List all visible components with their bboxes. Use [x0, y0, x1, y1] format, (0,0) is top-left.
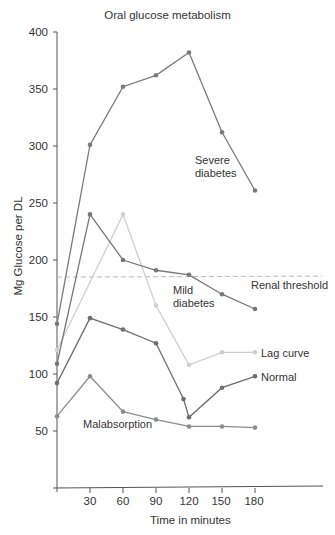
y-tick-50: 50: [0, 425, 48, 437]
data-point-normal: [55, 381, 60, 386]
data-point-normal: [181, 397, 186, 402]
data-point-lag-curve: [187, 363, 192, 368]
x-tick-150: 150: [206, 495, 236, 507]
x-tick-60: 60: [108, 495, 138, 507]
data-point-severe-diabetes: [187, 50, 192, 55]
data-point-lag-curve: [121, 212, 126, 217]
data-point-normal: [88, 316, 93, 321]
label-normal: Normal: [261, 371, 296, 384]
label-mild-diabetes: Mild diabetes: [173, 284, 215, 310]
y-tick-300: 300: [0, 140, 48, 152]
data-point-normal: [220, 385, 225, 390]
data-point-normal: [154, 341, 159, 346]
y-tick-150: 150: [0, 311, 48, 323]
x-tick-30: 30: [75, 495, 105, 507]
x-axis: [53, 486, 323, 488]
chart-title: Oral glucose metabolism: [0, 9, 335, 21]
label-renal-threshold: Renal threshold: [251, 279, 328, 292]
data-point-malabsorption: [88, 374, 93, 379]
label-severe-diabetes: Severe diabetes: [195, 154, 237, 180]
y-tick-100: 100: [0, 368, 48, 380]
data-point-lag-curve: [220, 350, 225, 355]
x-axis-label: Time in minutes: [150, 514, 270, 526]
chart-container: Oral glucose metabolism Mg Glucose per D…: [0, 0, 335, 535]
label-mild-line1: Mild: [173, 284, 215, 297]
x-tick-90: 90: [141, 495, 171, 507]
data-point-malabsorption: [253, 425, 258, 430]
data-point-mild-diabetes: [88, 212, 93, 217]
label-severe-line1: Severe: [195, 154, 237, 167]
data-point-malabsorption: [154, 417, 159, 422]
label-malabsorption: Malabsorption: [83, 418, 152, 431]
data-point-mild-diabetes: [187, 273, 192, 278]
plot-area: [0, 0, 335, 535]
data-point-severe-diabetes: [121, 84, 126, 89]
data-point-severe-diabetes: [88, 143, 93, 148]
data-point-malabsorption: [187, 424, 192, 429]
data-point-mild-diabetes: [55, 361, 60, 366]
data-point-malabsorption: [55, 414, 60, 419]
series-line-severe-diabetes: [57, 53, 255, 324]
series-line-normal: [57, 318, 255, 417]
label-lag-curve: Lag curve: [261, 347, 309, 360]
data-point-normal: [121, 327, 126, 332]
data-point-severe-diabetes: [220, 130, 225, 135]
data-point-mild-diabetes: [220, 292, 225, 297]
data-point-malabsorption: [121, 409, 126, 414]
label-mild-line2: diabetes: [173, 297, 215, 310]
data-point-mild-diabetes: [154, 268, 159, 273]
data-point-lag-curve: [154, 303, 159, 308]
data-point-lag-curve: [55, 348, 60, 353]
data-point-mild-diabetes: [253, 307, 258, 312]
y-tick-350: 350: [0, 83, 48, 95]
data-point-malabsorption: [220, 424, 225, 429]
data-point-normal: [187, 415, 192, 420]
y-tick-250: 250: [0, 197, 48, 209]
x-tick-180: 180: [239, 495, 269, 507]
label-severe-line2: diabetes: [195, 167, 237, 180]
data-point-severe-diabetes: [55, 322, 60, 327]
data-point-mild-diabetes: [121, 258, 126, 263]
data-point-normal: [253, 374, 258, 379]
data-point-severe-diabetes: [253, 188, 258, 193]
data-point-severe-diabetes: [154, 73, 159, 78]
y-tick-200: 200: [0, 254, 48, 266]
x-tick-120: 120: [174, 495, 204, 507]
data-point-lag-curve: [253, 350, 258, 355]
y-tick-400: 400: [0, 26, 48, 38]
